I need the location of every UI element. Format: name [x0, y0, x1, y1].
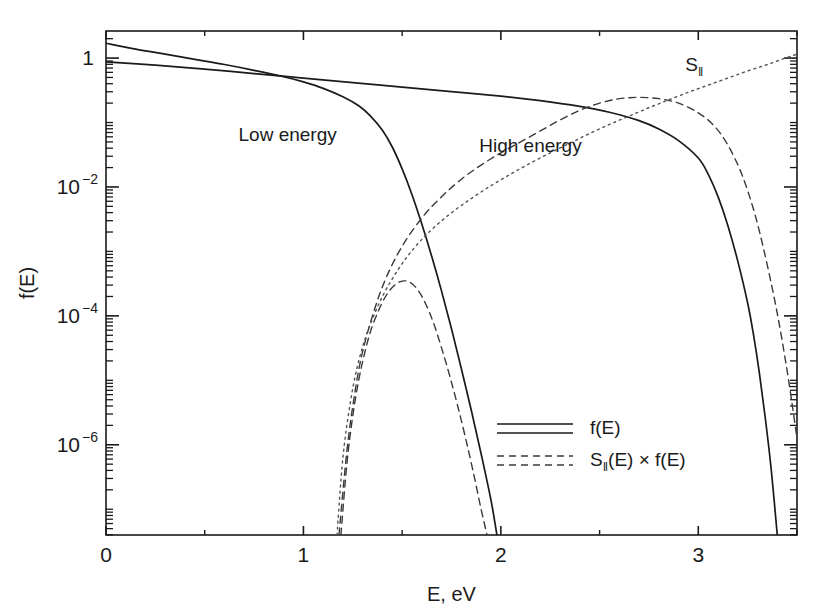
x-tick-label: 3 — [692, 543, 704, 566]
y-axis-title: f(E) — [16, 267, 38, 299]
line-chart: 0123110−210−410−6E, eVf(E)Low energyHigh… — [0, 0, 820, 615]
chart-annotation: Low energy — [239, 124, 338, 145]
y-tick-label-group: 1 — [82, 46, 94, 69]
series-curve — [339, 97, 797, 535]
x-tick-label: 2 — [495, 543, 507, 566]
curves-group — [106, 43, 797, 535]
legend-label: f(E) — [590, 417, 621, 438]
chart-annotation: High energy — [479, 135, 582, 156]
y-tick-exponent: −2 — [82, 171, 98, 187]
y-tick-label-group: 10−4 — [57, 300, 99, 327]
series-curve — [337, 54, 797, 535]
legend: f(E)S‖(E) × f(E) — [497, 417, 686, 474]
y-tick-label: 1 — [82, 46, 94, 69]
x-tick-label: 1 — [298, 543, 310, 566]
x-tick-label: 0 — [100, 543, 112, 566]
y-tick-exponent: −4 — [82, 300, 98, 316]
y-tick-label-group: 10−2 — [57, 171, 99, 198]
y-tick-label-group: 10−6 — [57, 429, 99, 456]
y-tick-label: 10 — [57, 175, 80, 198]
series-curve — [341, 281, 487, 535]
series-curve — [106, 43, 497, 535]
y-tick-exponent: −6 — [82, 429, 98, 445]
y-tick-label: 10 — [57, 304, 80, 327]
x-axis-title: E, eV — [427, 583, 477, 605]
y-tick-label: 10 — [57, 433, 80, 456]
legend-label: S‖(E) × f(E) — [590, 449, 686, 474]
plot-frame — [106, 31, 797, 535]
chart-annotation: S‖ — [685, 54, 703, 79]
chart-figure: 0123110−210−410−6E, eVf(E)Low energyHigh… — [0, 0, 820, 615]
